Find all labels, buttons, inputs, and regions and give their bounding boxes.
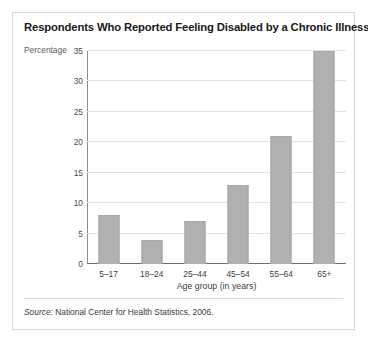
plot-area: 05101520253035 5–1718–2425–4445–5455–646… [87, 51, 346, 264]
page-title: Respondents Who Reported Feeling Disable… [24, 21, 349, 33]
y-tick-label: 15 [74, 168, 83, 178]
y-tick-label: 30 [74, 76, 83, 86]
bar-group: 5–17 [87, 51, 130, 264]
bar [314, 51, 335, 264]
x-axis-title: Age group (in years) [87, 281, 346, 291]
bar [184, 221, 205, 264]
x-tick-label: 5–17 [99, 269, 118, 279]
source-value: National Center for Health Statistics, 2… [53, 307, 214, 317]
x-tick-label: 18–24 [140, 269, 163, 279]
x-tick-label: 45–54 [226, 269, 249, 279]
y-tick-label: 0 [78, 259, 83, 269]
y-tick-label: 35 [74, 46, 83, 56]
figure-frame: Respondents Who Reported Feeling Disable… [12, 12, 355, 330]
x-tick-label: 65+ [317, 269, 331, 279]
y-axis-title: Percentage [24, 45, 67, 55]
bar-group: 18–24 [130, 51, 173, 264]
source-label: Source: [24, 307, 53, 317]
bar-series: 5–1718–2425–4445–5455–6465+ [87, 51, 346, 264]
source-divider [24, 298, 343, 299]
bar-group: 65+ [303, 51, 346, 264]
x-tick-label: 55–64 [270, 269, 293, 279]
bar [98, 215, 119, 264]
x-tick-label: 25–44 [183, 269, 206, 279]
bar [141, 240, 162, 264]
source-note: Source: National Center for Health Stati… [24, 307, 213, 317]
bar-group: 25–44 [173, 51, 216, 264]
bar-group: 45–54 [217, 51, 260, 264]
y-tick-label: 25 [74, 107, 83, 117]
bar [228, 185, 249, 264]
bar-group: 55–64 [260, 51, 303, 264]
y-tick-label: 10 [74, 198, 83, 208]
y-tick-label: 20 [74, 137, 83, 147]
y-tick-label: 5 [78, 229, 83, 239]
bar [271, 136, 292, 264]
